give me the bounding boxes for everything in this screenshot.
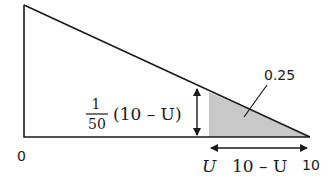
height-fraction-denominator: 50: [88, 116, 106, 132]
diagram-canvas: 0.25 0 10 U 10 – U 1 50 (10 – U): [0, 0, 336, 189]
height-fraction-numerator: 1: [92, 96, 101, 112]
lower-bound-label: U: [202, 156, 217, 176]
origin-label: 0: [17, 148, 26, 164]
width-label: 10 – U: [232, 156, 287, 176]
height-factor-label: (10 – U): [113, 104, 182, 124]
end-label: 10: [302, 157, 320, 173]
area-label: 0.25: [264, 67, 295, 83]
